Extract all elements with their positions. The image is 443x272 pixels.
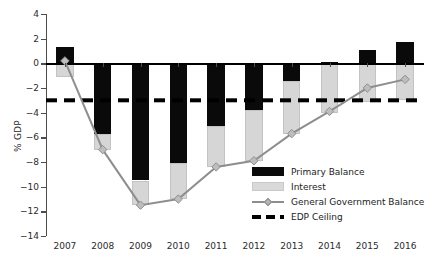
x-axis-tick-label: 2015 [356,241,379,251]
x-axis-tick-label: 2010 [167,241,190,251]
y-axis-tick-label: −2 [26,83,39,93]
chart-legend: Primary Balance Interest General Governm… [252,164,424,224]
x-axis-tick [103,63,104,67]
chart-container: % GDP 420−2−4−6−8−10−12−14 2007200820092… [0,0,443,272]
x-axis-tick [330,63,331,67]
x-axis-tick-label: 2009 [129,241,152,251]
legend-item-interest: Interest [252,179,424,194]
legend-item-general-government-balance: General Government Balance [252,194,424,209]
interest-swatch [252,182,284,191]
x-axis-tick [254,63,255,67]
x-axis-tick [141,63,142,67]
edp-ceiling-swatch [252,215,284,219]
y-axis-tick-label: −8 [26,157,39,167]
x-axis-tick-label: 2014 [318,241,341,251]
x-axis-tick-label: 2007 [53,241,76,251]
line-marker [401,75,409,83]
legend-label: Primary Balance [291,167,365,177]
x-axis-tick [405,63,406,67]
y-axis-tick [41,236,46,237]
x-axis-tick-label: 2008 [91,241,114,251]
x-axis-tick [178,63,179,67]
legend-label: EDP Ceiling [291,212,343,222]
y-axis-tick-label: 2 [33,34,39,44]
y-axis-tick-label: −4 [26,108,39,118]
y-axis-tick-label: −6 [26,132,39,142]
x-axis-tick [216,63,217,67]
x-axis-tick-label: 2011 [205,241,228,251]
x-axis-tick-label: 2013 [280,241,303,251]
y-axis-tick-label: −12 [20,206,39,216]
y-axis-title: % GDP [13,120,23,152]
x-axis-tick-label: 2016 [394,241,417,251]
legend-label: Interest [291,182,326,192]
y-axis-tick-label: 0 [33,58,39,68]
general-government-balance-swatch [252,197,284,206]
y-axis-tick-label: −10 [20,182,39,192]
legend-item-primary-balance: Primary Balance [252,164,424,179]
y-axis-tick-label: −14 [20,231,39,241]
x-axis-tick-label: 2012 [242,241,265,251]
y-axis-tick-label: 4 [33,9,39,19]
x-axis-tick [367,63,368,67]
x-axis-tick [65,63,66,67]
legend-item-edp-ceiling: EDP Ceiling [252,209,424,224]
primary-balance-swatch [252,167,284,176]
x-axis-tick [292,63,293,67]
legend-label: General Government Balance [291,197,424,207]
